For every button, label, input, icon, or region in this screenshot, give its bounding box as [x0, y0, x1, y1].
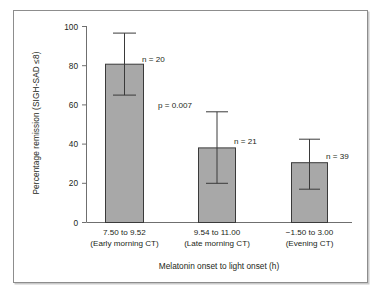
y-tick-label-0: 0 [73, 218, 78, 228]
y-tick-label-80: 80 [69, 61, 79, 71]
x-tick-sublabel-2: (Evening CT) [286, 239, 334, 248]
chart-svg: 100 80 60 40 20 0 n = 20 n = 21 n = 39 [0, 0, 382, 293]
x-axis-title: Melatonin onset to light onset (h) [159, 261, 280, 271]
y-axis-title: Percentage remission (SIGH-SAD ≤8) [31, 23, 41, 223]
data-label-series-2: n = 39 [326, 152, 349, 161]
x-tick-label-2: −1.50 to 3.00 [286, 228, 334, 237]
data-label-series-0: n = 20 [142, 55, 165, 64]
y-tick-label-20: 20 [69, 178, 79, 188]
x-tick-sublabel-0: (Early morning CT) [90, 239, 159, 248]
x-tick-label-1: 9.54 to 11.00 [194, 228, 241, 237]
x-tick-sublabel-1: (Late morning CT) [184, 239, 250, 248]
y-tick-label-60: 60 [69, 100, 79, 110]
chart-plot-area: Percentage remission (SIGH-SAD ≤8) 100 8… [0, 0, 382, 293]
y-tick-label-100: 100 [64, 22, 78, 32]
y-axis-ticks [82, 27, 87, 223]
y-tick-label-40: 40 [69, 139, 79, 149]
x-tick-label-0: 7.50 to 9.52 [103, 228, 146, 237]
data-label-series-1: n = 21 [234, 137, 257, 146]
p-value-annotation: p = 0.007 [158, 101, 192, 110]
